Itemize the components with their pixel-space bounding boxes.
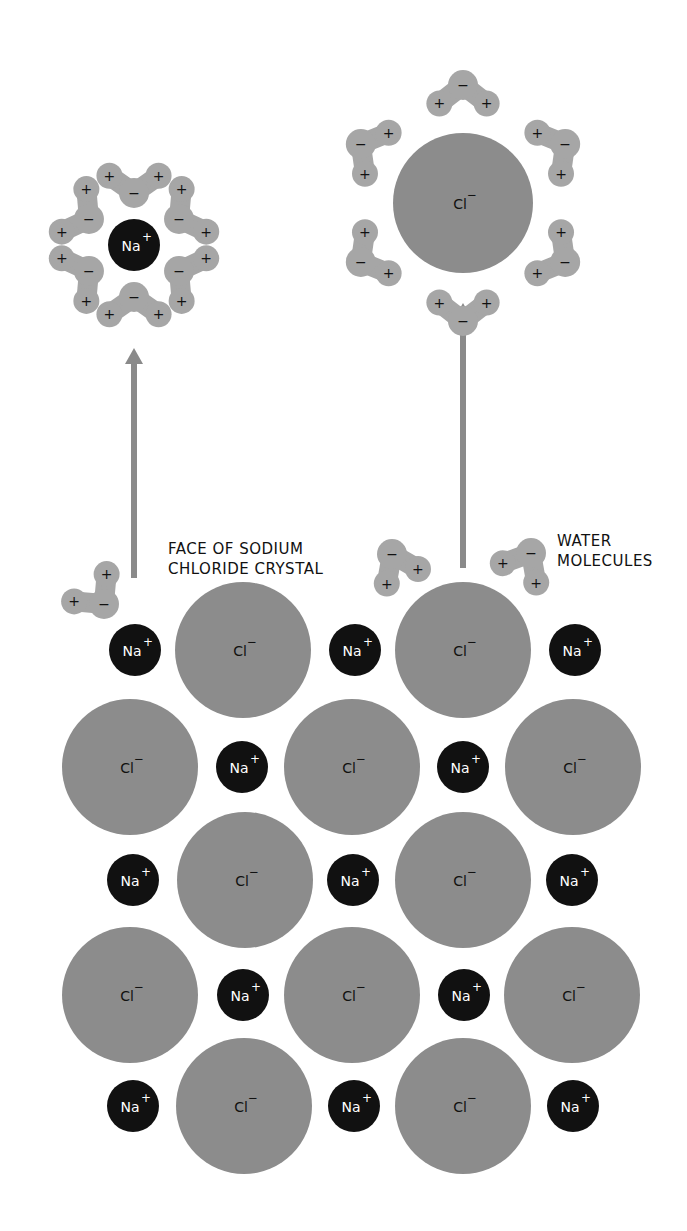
oxygen-charge: − [98,596,110,612]
chloride-ion: Cl− [177,812,313,948]
sodium-ion-label-charge: + [583,635,593,649]
hydrogen-charge: + [176,181,188,197]
chloride-ion-label-symbol: Cl [233,643,247,659]
water-molecule: −++ [164,176,219,245]
water-molecules-label-line2: MOLECULES [557,551,653,571]
water-molecule: −++ [49,176,104,245]
sodium-ion-label-symbol: Na [560,1099,579,1115]
chloride-ion-label-charge: − [356,752,366,766]
chloride-ion: Cl− [504,927,640,1063]
sodium-ion-label-charge: + [580,865,590,879]
chloride-ion: Cl− [395,812,531,948]
sodium-ion-label-charge: + [362,1091,372,1105]
hydrogen-charge: + [530,575,542,591]
water-molecule: −++ [164,245,219,314]
sodium-ion-label-charge: + [142,230,152,244]
hydrogen-charge: + [481,295,493,311]
water-molecule: −++ [426,290,499,336]
chloride-ion: Cl− [393,133,533,273]
chloride-ion: Cl− [395,582,531,718]
sodium-ion-label-symbol: Na [559,873,578,889]
chloride-ion-label-symbol: Cl [120,988,134,1004]
sodium-ion: Na+ [328,1080,380,1132]
chloride-ion-label-charge: − [467,188,477,202]
hydrogen-charge: + [56,250,68,266]
chloride-ion: Cl− [505,699,641,835]
sodium-ion: Na+ [329,624,381,676]
chloride-ion: Cl− [284,927,420,1063]
chloride-ion-label-symbol: Cl [120,760,134,776]
sodium-ion: Na+ [217,969,269,1021]
sodium-ion-label-charge: + [471,752,481,766]
arrows [125,303,472,578]
water-molecule: −++ [346,219,402,286]
crystal-face-label-line2: CHLORIDE CRYSTAL [168,559,323,579]
sodium-ion-label-charge: + [581,1091,591,1105]
sodium-ion-label-symbol: Na [451,988,470,1004]
sodium-ion-label-symbol: Na [340,873,359,889]
hydrogen-charge: + [383,265,395,281]
crystal-face-label: FACE OF SODIUM CHLORIDE CRYSTAL [168,539,323,579]
hydrogen-charge: + [555,224,567,240]
chloride-ion-label-symbol: Cl [453,643,467,659]
oxygen-charge: − [559,254,571,270]
hydrogen-charge: + [433,95,445,111]
sodium-ion: Na+ [437,741,489,793]
chloride-ion-label-symbol: Cl [562,988,576,1004]
hydrogen-charge: + [381,576,393,592]
oxygen-charge: − [386,546,398,562]
hydrogen-charge: + [80,181,92,197]
sodium-ion: Na+ [327,854,379,906]
hydrogen-charge: + [555,166,567,182]
oxygen-charge: − [83,211,95,227]
sodium-chloride-crystal-lattice: Na+Cl−Na+Cl−Na+Cl−Na+Cl−Na+Cl−Na+Cl−Na+C… [62,582,641,1174]
water-molecule: −++ [96,282,171,327]
sodium-ion-label-charge: + [143,635,153,649]
chloride-ion-label-charge: − [467,865,477,879]
hydrogen-charge: + [176,293,188,309]
water-molecule: −++ [96,163,171,208]
hydrogen-charge: + [68,593,80,609]
chloride-ion-label-symbol: Cl [563,760,577,776]
hydrogen-charge: + [200,250,212,266]
hydrogen-charge: + [412,561,424,577]
water-molecule: −++ [374,539,431,597]
sodium-ion-label-symbol: Na [229,760,248,776]
chloride-ion-label-charge: − [249,865,259,879]
sodium-ion-label-charge: + [250,752,260,766]
oxygen-charge: − [559,136,571,152]
water-molecule: −++ [346,120,402,187]
hydrogen-charge: + [56,224,68,240]
hydrogen-charge: + [80,293,92,309]
sodium-ion-label-symbol: Na [450,760,469,776]
chloride-ion: Cl− [284,699,420,835]
water-molecule: −++ [426,70,499,116]
chloride-ion-label-charge: − [247,635,257,649]
dissolution-diagram: Na+−++−++−++−++−++−++ Cl−−++−++−++−++−++… [0,0,687,1231]
oxygen-charge: − [173,211,185,227]
chloride-ion-label-symbol: Cl [235,873,249,889]
chloride-ion-label-symbol: Cl [453,196,467,212]
chloride-ion: Cl− [62,699,198,835]
sodium-ion: Na+ [549,624,601,676]
sodium-ion-label-charge: + [361,865,371,879]
chloride-ion-label-symbol: Cl [342,760,356,776]
water-molecules-label: WATER MOLECULES [557,531,653,571]
water-molecules-label-line1: WATER [557,531,653,551]
hydrogen-charge: + [200,224,212,240]
chloride-ion-label-symbol: Cl [453,873,467,889]
hydrogen-charge: + [104,168,116,184]
chloride-ion-label-charge: − [356,980,366,994]
chloride-ion-label-charge: − [576,980,586,994]
oxygen-charge: − [457,313,469,329]
chloride-ion-label-charge: − [134,980,144,994]
oxygen-charge: − [173,263,185,279]
chloride-ion: Cl− [175,582,311,718]
chloride-ion-label-charge: − [577,752,587,766]
chloride-ion-label-symbol: Cl [342,988,356,1004]
sodium-ion-label-charge: + [472,980,482,994]
oxygen-charge: − [355,254,367,270]
sodium-ion: Na+ [216,741,268,793]
sodium-ion-label-symbol: Na [122,643,141,659]
arrow-up-icon [125,348,143,578]
